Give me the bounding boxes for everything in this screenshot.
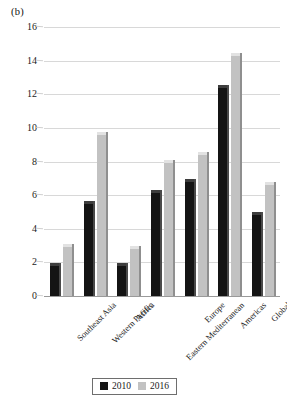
bar-group xyxy=(151,27,175,296)
y-tick-leader-6 xyxy=(36,194,43,196)
bar-2010 xyxy=(252,212,263,296)
bar-side-face xyxy=(59,263,61,296)
black-square-icon xyxy=(100,382,108,390)
bar-group xyxy=(185,27,209,296)
bar-2010 xyxy=(151,190,162,296)
y-tick-leader-10 xyxy=(36,127,43,129)
bar-side-face xyxy=(261,212,263,296)
bar-side-face xyxy=(194,179,196,296)
bar-group xyxy=(252,27,276,296)
bar-group xyxy=(50,27,74,296)
y-tick-leader-8 xyxy=(36,160,43,162)
bar-group xyxy=(218,27,242,296)
legend: 2010 2016 xyxy=(92,378,177,395)
bar-top-face xyxy=(117,263,126,266)
bar-2010 xyxy=(117,263,128,296)
y-tick-leader-2 xyxy=(36,261,43,263)
bar-group xyxy=(84,27,108,296)
bar-2016 xyxy=(164,160,175,296)
bar-2016 xyxy=(63,244,74,296)
bar-side-face xyxy=(139,246,141,296)
bar-top-face xyxy=(185,179,194,182)
figure-panel-b: (b) 0246810121416 Southeast AsiaWestern … xyxy=(0,0,287,405)
bar-2010 xyxy=(84,201,95,296)
y-tick-leader-0 xyxy=(36,295,43,297)
bar-side-face xyxy=(126,263,128,296)
bar-2010 xyxy=(218,85,229,296)
bar-2010 xyxy=(185,179,196,296)
legend-item-2016: 2016 xyxy=(138,381,169,391)
y-tick-label-2: 2 xyxy=(32,257,37,268)
bar-top-face xyxy=(198,152,207,155)
x-tick-label: Eastern Mediterranean xyxy=(184,300,246,362)
bar-side-face xyxy=(106,132,108,296)
bar-top-face xyxy=(97,132,106,135)
y-tick-leader-4 xyxy=(36,227,43,229)
bar-top-face xyxy=(218,85,227,88)
panel-label: (b) xyxy=(11,6,24,17)
y-tick-label-12: 12 xyxy=(27,89,37,100)
bar-top-face xyxy=(231,53,240,56)
y-tick-label-6: 6 xyxy=(32,189,37,200)
x-tick-label: Southeast Asia xyxy=(75,300,118,343)
bar-side-face xyxy=(240,53,242,296)
bar-top-face xyxy=(164,160,173,163)
bar-side-face xyxy=(274,182,276,296)
bar-top-face xyxy=(50,263,59,266)
legend-label-2016: 2016 xyxy=(150,381,169,391)
bar-side-face xyxy=(93,201,95,296)
bar-side-face xyxy=(160,190,162,296)
bar-top-face xyxy=(252,212,261,215)
bar-top-face xyxy=(63,244,72,247)
bar-top-face xyxy=(151,190,160,193)
x-tick-label: Western Pacific xyxy=(109,300,154,345)
bar-2010 xyxy=(50,263,61,296)
x-tick-label: Africa xyxy=(134,300,157,323)
y-tick-label-16: 16 xyxy=(27,21,37,32)
bar-2016 xyxy=(130,246,141,296)
bar-series-container xyxy=(44,27,280,296)
x-tick-label: Europe xyxy=(202,300,227,325)
bar-top-face xyxy=(130,246,139,249)
x-tick-label: Americas xyxy=(238,300,268,330)
bar-2016 xyxy=(231,53,242,296)
bar-top-face xyxy=(265,182,274,185)
bar-top-face xyxy=(84,201,93,204)
gray-square-icon xyxy=(138,382,146,390)
bar-side-face xyxy=(207,152,209,296)
bar-group xyxy=(117,27,141,296)
bar-2016 xyxy=(265,182,276,296)
x-tick-label: Global xyxy=(269,300,287,324)
bar-2016 xyxy=(198,152,209,296)
y-tick-leader-16 xyxy=(36,26,43,28)
plot-area: 0246810121416 xyxy=(44,27,280,296)
legend-item-2010: 2010 xyxy=(100,381,131,391)
bar-side-face xyxy=(173,160,175,296)
y-tick-leader-12 xyxy=(36,93,43,95)
bar-side-face xyxy=(72,244,74,296)
legend-label-2010: 2010 xyxy=(112,381,131,391)
y-tick-leader-14 xyxy=(36,59,43,61)
bar-2016 xyxy=(97,132,108,296)
gridline-0 xyxy=(44,296,280,297)
bar-side-face xyxy=(227,85,229,296)
